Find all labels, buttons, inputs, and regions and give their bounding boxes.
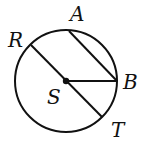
label-S: S (47, 85, 61, 109)
circle-diagram: A R B S T (0, 0, 151, 152)
center-point-S (63, 78, 69, 84)
label-B: B (122, 70, 138, 94)
diagram-canvas: A R B S T (0, 0, 151, 152)
label-T: T (111, 118, 126, 142)
label-A: A (68, 2, 84, 26)
label-R: R (7, 28, 23, 52)
